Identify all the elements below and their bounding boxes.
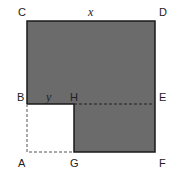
label-d: D (159, 6, 167, 18)
geometry-diagram: C D x B y H E A G F (0, 0, 178, 182)
label-g: G (70, 157, 79, 169)
label-c: C (18, 6, 26, 18)
label-e: E (159, 91, 166, 103)
dashed-missing-square (27, 104, 74, 152)
label-x: x (87, 5, 94, 19)
label-f: F (159, 157, 166, 169)
shaded-region (27, 21, 155, 152)
label-h: H (70, 91, 78, 103)
label-a: A (18, 157, 26, 169)
label-b: B (17, 91, 24, 103)
label-y: y (45, 90, 52, 104)
